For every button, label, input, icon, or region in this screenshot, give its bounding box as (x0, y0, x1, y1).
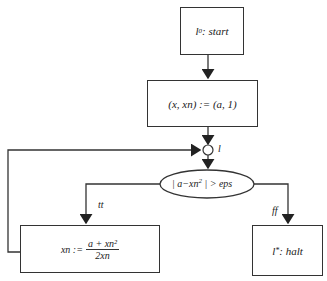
start-label-rest: : start (202, 25, 229, 37)
halt-node: l*: halt (252, 225, 323, 276)
cond-label: | a−xn2 | > eps (172, 177, 232, 189)
update-numerator: a + xn² (86, 238, 119, 250)
init-node: (x, xn) := (a, 1) (147, 80, 258, 127)
start-node: l0: start (180, 7, 244, 55)
cond-label-left: | a−xn (172, 178, 198, 189)
false-branch-label: ff (272, 205, 278, 216)
cond-label-right: | > eps (202, 178, 232, 189)
update-fraction: a + xn² 2xn (86, 238, 119, 261)
true-branch-label: tt (98, 199, 104, 210)
join-label: l (218, 143, 221, 154)
update-node: xn := a + xn² 2xn (20, 225, 160, 273)
init-label: (x, xn) := (a, 1) (168, 98, 237, 110)
update-lhs: xn := (61, 244, 83, 255)
update-denominator: 2xn (95, 250, 109, 261)
halt-label-rest: : halt (279, 245, 303, 257)
